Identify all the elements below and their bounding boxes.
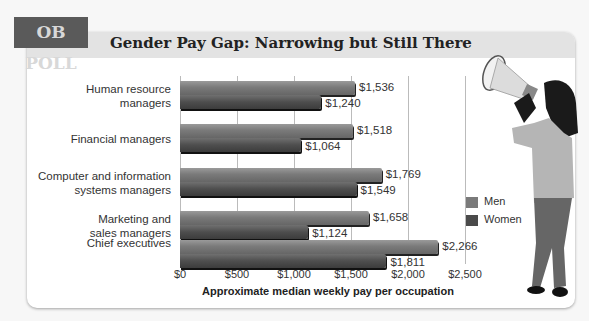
- category-label: Financial managers: [71, 132, 171, 146]
- bar-men: [180, 81, 355, 95]
- bar-women: [180, 225, 308, 239]
- x-tick-label: $500: [225, 268, 249, 280]
- bar-women: [180, 95, 321, 109]
- bar-women: [180, 254, 386, 268]
- x-tick-label: $1,500: [334, 268, 368, 280]
- x-tick-label: $1,000: [277, 268, 311, 280]
- value-label-women: $1,549: [361, 184, 396, 196]
- chart-title: Gender Pay Gap: Narrowing but Still Ther…: [110, 34, 472, 52]
- category-label: Human resource: [86, 82, 171, 96]
- bar-women: [180, 182, 357, 196]
- bar-men: [180, 124, 353, 138]
- category-label: systems managers: [74, 183, 171, 197]
- value-label-women: $1,064: [305, 140, 340, 152]
- x-axis-label: Approximate median weekly pay per occupa…: [202, 285, 454, 297]
- value-label-women: $1,240: [325, 97, 360, 109]
- gridline: [465, 76, 466, 264]
- woman-megaphone-illustration: [474, 48, 589, 298]
- category-label: Marketing and: [98, 212, 171, 226]
- category-label: Chief executives: [87, 236, 171, 250]
- value-label-men: $1,658: [373, 211, 408, 223]
- value-label-men: $2,266: [442, 240, 477, 252]
- bar-men: [180, 168, 382, 182]
- bar-men: [180, 211, 369, 225]
- value-label-men: $1,769: [386, 168, 421, 180]
- bar-men: [180, 240, 438, 254]
- x-tick-label: $2,000: [391, 268, 425, 280]
- megaphone-icon: [478, 53, 538, 100]
- bar-women: [180, 138, 301, 152]
- value-label-men: $1,536: [359, 81, 394, 93]
- value-label-women: $1,811: [390, 256, 424, 268]
- value-label-men: $1,518: [357, 124, 392, 136]
- category-label: managers: [120, 96, 171, 110]
- value-label-women: $1,124: [312, 227, 347, 239]
- x-tick-label: $0: [174, 268, 186, 280]
- ob-poll-badge: OB POLL: [14, 17, 88, 48]
- category-label: Computer and information: [38, 169, 171, 183]
